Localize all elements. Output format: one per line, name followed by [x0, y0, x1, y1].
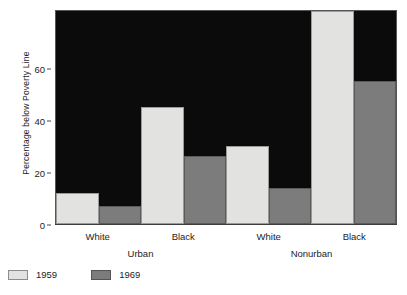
bar-chart: Percentage below Poverty Line 6040200 Wh… — [0, 0, 407, 295]
y-axis: 6040200 — [0, 0, 55, 295]
legend-swatch-1959 — [8, 270, 28, 280]
plot-area — [55, 10, 397, 225]
bar-nonurban-black-1969 — [354, 81, 397, 224]
y-axis-tick-mark — [47, 121, 51, 122]
y-axis-tick-mark — [47, 173, 51, 174]
x-axis-tick-label: Black — [312, 229, 398, 245]
legend-label-1969: 1969 — [119, 269, 140, 280]
y-axis-tick-label: 40 — [5, 116, 45, 127]
legend-swatch-1969 — [91, 270, 111, 280]
x-axis-tick-label: Black — [141, 229, 227, 245]
x-axis-tick-label: White — [226, 229, 312, 245]
bars-layer — [56, 11, 396, 224]
x-axis-tick-labels: WhiteBlackWhiteBlack — [55, 229, 397, 245]
bar-nonurban-black-1959 — [311, 11, 354, 224]
legend-label-1959: 1959 — [36, 269, 57, 280]
x-axis-line — [55, 224, 397, 225]
x-axis-group-label-urban: Urban — [55, 246, 226, 262]
legend-item-1959: 1959 — [8, 269, 57, 280]
legend: 19591969 — [8, 269, 174, 280]
y-axis-tick-mark — [47, 69, 51, 70]
x-axis-group-labels: UrbanNonurban — [55, 246, 397, 262]
x-axis-tick-label: White — [55, 229, 141, 245]
y-axis-tick-label: 60 — [5, 64, 45, 75]
y-axis-tick-mark — [47, 225, 51, 226]
y-axis-tick-label: 0 — [5, 220, 45, 231]
bar-nonurban-white-1959 — [226, 146, 269, 224]
x-axis-group-label-nonurban: Nonurban — [226, 246, 397, 262]
y-axis-tick-label: 20 — [5, 168, 45, 179]
bar-nonurban-white-1969 — [269, 188, 312, 224]
bar-urban-black-1959 — [141, 107, 184, 224]
bar-urban-white-1969 — [99, 206, 142, 224]
bar-urban-white-1959 — [56, 193, 99, 224]
legend-item-1969: 1969 — [91, 269, 140, 280]
bar-urban-black-1969 — [184, 156, 227, 224]
